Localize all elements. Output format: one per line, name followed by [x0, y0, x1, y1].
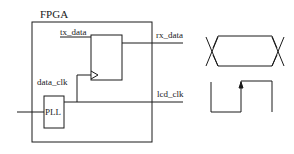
clock-triangle-icon [91, 71, 98, 79]
clock-waveform [211, 81, 272, 112]
lcd-clk-label: lcd_clk [157, 89, 184, 99]
tx-data-label: tx_data [60, 27, 87, 37]
fpga-label: FPGA [40, 8, 68, 20]
data-clk-line [77, 75, 91, 102]
rx-data-label: rx_data [156, 30, 183, 40]
data-clk-label: data_clk [37, 77, 68, 87]
pll-label: PLL [45, 107, 61, 117]
fpga-timing-diagram: FPGA tx_data rx_data data_clk PLL lcd_cl… [0, 0, 294, 154]
rising-edge-arrow-icon [239, 82, 243, 88]
data-eye-waveform [206, 36, 284, 66]
